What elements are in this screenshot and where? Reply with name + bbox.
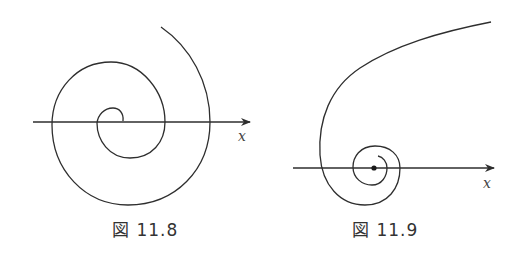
converging-spiral — [320, 22, 491, 205]
figure-11-9 — [293, 22, 494, 205]
x-axis-label: x — [483, 175, 491, 191]
figure-canvas — [0, 0, 521, 259]
figure-caption: 図 11.9 — [352, 216, 418, 241]
figure-caption: 図 11.8 — [112, 216, 178, 241]
x-axis-label: x — [238, 128, 246, 144]
expanding-spiral — [52, 27, 210, 205]
fixed-point-dot — [371, 165, 376, 170]
figure-11-8 — [33, 27, 250, 205]
